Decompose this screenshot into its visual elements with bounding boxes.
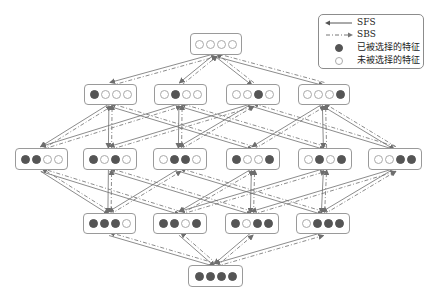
sfs-edge xyxy=(109,236,215,267)
unselected-feature-icon xyxy=(302,219,311,228)
unselected-feature-icon xyxy=(232,90,241,99)
sfs-edge xyxy=(322,105,323,148)
selected-feature-icon xyxy=(231,219,240,228)
selected-feature-icon xyxy=(195,272,204,281)
sbs-edge xyxy=(216,53,324,82)
selected-feature-icon xyxy=(264,219,273,228)
unselected-feature-icon xyxy=(243,90,252,99)
subset-node-0001 xyxy=(298,84,350,105)
sfs-edge xyxy=(178,105,179,148)
selected-feature-icon xyxy=(90,90,99,99)
selected-feature-icon xyxy=(159,219,168,228)
subset-node-1001 xyxy=(226,148,280,170)
subset-node-0111 xyxy=(296,213,350,234)
unselected-feature-icon xyxy=(181,219,190,228)
unselected-feature-icon xyxy=(325,90,334,99)
legend-label-sfs: SFS xyxy=(357,17,376,28)
selected-feature-icon xyxy=(170,219,179,228)
sfs-edge xyxy=(41,104,110,147)
selected-feature-icon xyxy=(171,90,180,99)
sbs-edge xyxy=(182,56,218,85)
unselected-feature-icon xyxy=(217,40,226,49)
sfs-edge xyxy=(215,232,323,263)
legend-label-unselected: 未被选择的特征 xyxy=(357,55,420,66)
legend-item-sbs: SBS xyxy=(319,29,423,40)
unselected-feature-icon xyxy=(254,155,263,164)
sfs-edge xyxy=(110,172,252,215)
subset-node-0000 xyxy=(190,33,242,55)
unselected-feature-icon xyxy=(122,219,131,228)
selected-feature-icon xyxy=(265,155,274,164)
unselected-feature-icon xyxy=(122,155,131,164)
subset-node-0010 xyxy=(226,84,280,105)
unselected-feature-icon xyxy=(374,155,383,164)
sfs-edge xyxy=(215,56,252,85)
sbs-edge xyxy=(325,104,396,147)
sfs-edge xyxy=(180,107,324,150)
selected-feature-icon xyxy=(407,155,416,164)
sbs-edge xyxy=(181,233,217,264)
selected-feature-icon xyxy=(336,90,345,99)
selected-feature-icon xyxy=(32,155,41,164)
unselected-feature-icon xyxy=(160,90,169,99)
unselected-feature-icon xyxy=(195,40,204,49)
unselected-feature-icon xyxy=(206,40,215,49)
sfs-edge xyxy=(250,170,251,213)
sfs-edge xyxy=(41,103,180,146)
feature-selection-lattice-diagram: SFS SBS 已被选择的特征 未被选择的特征 xyxy=(0,0,437,303)
legend-item-sfs: SFS xyxy=(319,17,423,28)
legend: SFS SBS 已被选择的特征 未被选择的特征 xyxy=(318,14,424,69)
selected-feature-icon xyxy=(313,219,322,228)
subset-node-0100 xyxy=(154,84,207,105)
subset-node-1011 xyxy=(225,213,279,234)
selected-feature-icon xyxy=(337,155,346,164)
unselected-feature-icon xyxy=(303,90,312,99)
subset-node-0110 xyxy=(153,148,207,170)
unselected-feature-icon xyxy=(265,90,274,99)
sbs-edge xyxy=(112,105,113,148)
selected-feature-icon xyxy=(217,272,226,281)
selected-feature-icon xyxy=(89,219,98,228)
empty-circle-icon xyxy=(325,55,353,66)
legend-item-selected: 已被选择的特征 xyxy=(319,42,423,53)
selected-feature-icon xyxy=(206,272,215,281)
sbs-edge xyxy=(42,107,181,150)
selected-feature-icon xyxy=(315,155,324,164)
legend-item-unselected: 未被选择的特征 xyxy=(319,55,423,66)
subset-node-0101 xyxy=(298,148,352,170)
selected-feature-icon xyxy=(396,155,405,164)
sfs-edge xyxy=(108,170,109,213)
subset-node-1110 xyxy=(83,213,136,234)
sbs-edge xyxy=(253,103,395,146)
sfs-edge xyxy=(41,172,180,215)
unselected-feature-icon xyxy=(100,155,109,164)
sfs-edge xyxy=(214,233,251,264)
filled-circle-icon xyxy=(325,42,353,53)
selected-feature-icon xyxy=(324,219,333,228)
sbs-edge xyxy=(181,103,326,146)
unselected-feature-icon xyxy=(54,155,63,164)
selected-feature-icon xyxy=(21,155,30,164)
sbs-edge xyxy=(254,170,255,213)
selected-feature-icon xyxy=(111,219,120,228)
subset-node-0011 xyxy=(368,148,422,170)
selected-feature-icon xyxy=(232,155,241,164)
unselected-feature-icon xyxy=(192,155,201,164)
selected-feature-icon xyxy=(111,155,120,164)
selected-feature-icon xyxy=(335,219,344,228)
sbs-edge xyxy=(216,236,324,267)
sfs-edge xyxy=(41,171,109,214)
selected-feature-icon xyxy=(228,272,237,281)
selected-feature-icon xyxy=(181,155,190,164)
subset-node-1111 xyxy=(188,265,243,287)
selected-feature-icon xyxy=(192,219,201,228)
sbs-edge xyxy=(325,170,327,213)
sfs-edge xyxy=(216,57,324,86)
dashdot-arrow-right-icon xyxy=(325,29,353,40)
selected-feature-icon xyxy=(170,155,179,164)
unselected-feature-icon xyxy=(326,155,335,164)
unselected-feature-icon xyxy=(101,90,110,99)
unselected-feature-icon xyxy=(182,90,191,99)
selected-feature-icon xyxy=(89,155,98,164)
subset-node-1100 xyxy=(15,148,68,170)
